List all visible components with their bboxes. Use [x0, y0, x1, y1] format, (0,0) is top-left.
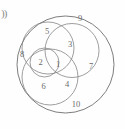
- region-label-5: 5: [45, 26, 49, 36]
- region-label-1: 1: [56, 59, 60, 69]
- region-label-group: 95382176410: [20, 13, 93, 109]
- region-label-10: 10: [72, 99, 81, 109]
- region-label-9: 9: [78, 13, 82, 23]
- region-label-8: 8: [20, 49, 24, 59]
- circle-lower-left-set: [22, 49, 78, 105]
- venn-diagram: 95382176410: [0, 0, 125, 129]
- region-label-2: 2: [38, 57, 42, 67]
- region-label-3: 3: [68, 39, 72, 49]
- region-label-4: 4: [65, 79, 70, 89]
- region-label-6: 6: [41, 81, 45, 91]
- circle-center-small-set: [30, 48, 59, 77]
- figure-canvas: )) 95382176410: [0, 0, 125, 129]
- region-label-7: 7: [89, 61, 93, 71]
